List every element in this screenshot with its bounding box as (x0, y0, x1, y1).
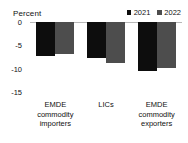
bar-group-lics (83, 22, 129, 92)
category-line-3: exporters (132, 119, 182, 129)
bar-2022-emde-importers[interactable] (55, 22, 74, 54)
bar-2021-emde-exporters[interactable] (138, 22, 157, 71)
legend-swatch-2022 (157, 10, 162, 15)
x-axis-category-labels: EMDE commodity importers LICs EMDE commo… (30, 100, 182, 129)
category-label-emde-commodity-exporters: EMDE commodity exporters (132, 100, 182, 129)
bar-2021-lics[interactable] (87, 22, 106, 58)
category-label-emde-commodity-importers: EMDE commodity importers (30, 100, 80, 129)
category-line-1: LICs (81, 100, 131, 110)
y-tick-m15: -15 (0, 88, 22, 97)
category-line-2: commodity (30, 110, 80, 120)
legend-item-2021[interactable]: 2021 (127, 8, 151, 17)
bar-2022-lics[interactable] (106, 22, 125, 63)
bar-groups (30, 22, 182, 92)
bar-group-emde-commodity-exporters (134, 22, 180, 92)
legend-label-2022: 2022 (164, 8, 181, 17)
legend-label-2021: 2021 (134, 8, 151, 17)
bar-2021-emde-importers[interactable] (36, 22, 55, 56)
bar-chart: Percent 2021 2022 0 -5 -10 -15 (0, 0, 188, 143)
category-line-1: EMDE (30, 100, 80, 110)
y-tick-m10: -10 (0, 64, 22, 73)
bar-group-emde-commodity-importers (32, 22, 78, 92)
y-tick-m5: -5 (0, 41, 22, 50)
category-line-3: importers (30, 119, 80, 129)
plot-area: 0 -5 -10 -15 (30, 22, 182, 92)
chart-legend: 2021 2022 (127, 8, 181, 17)
category-line-1: EMDE (132, 100, 182, 110)
category-line-2: commodity (132, 110, 182, 120)
legend-item-2022[interactable]: 2022 (157, 8, 181, 17)
bar-2022-emde-exporters[interactable] (157, 22, 176, 68)
category-label-lics: LICs (81, 100, 131, 129)
legend-swatch-2021 (127, 10, 132, 15)
y-tick-0: 0 (0, 18, 22, 27)
